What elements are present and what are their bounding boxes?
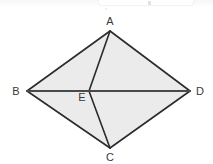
vertex-label-a: A: [106, 15, 114, 27]
vertex-label-d: D: [196, 85, 204, 97]
vertex-label-e: E: [78, 91, 85, 103]
vertex-label-b: B: [12, 85, 19, 97]
figure-canvas: A B C D E: [0, 0, 213, 164]
geometry-diagram: A B C D E: [0, 0, 213, 164]
quadrilateral-abcd-fill: [27, 31, 190, 148]
vertex-label-c: C: [106, 151, 114, 163]
